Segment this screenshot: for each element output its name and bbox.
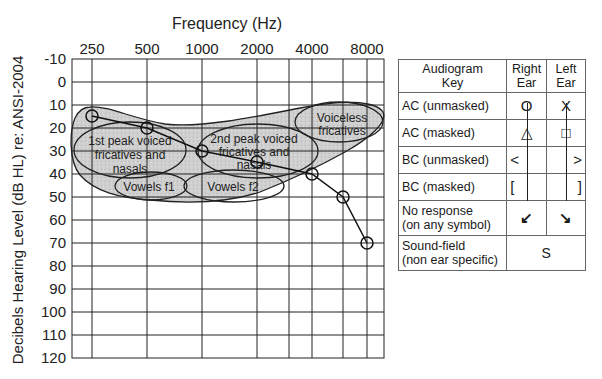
x-tick-2000: 2000: [240, 40, 273, 57]
x-tick-labels: 250 500 1000 2000 4000 8000: [79, 40, 383, 57]
legend-label: BC (masked): [399, 174, 507, 201]
chart-title: Frequency (Hz): [172, 15, 282, 32]
y-axis-label: Decibels Hearing Level (dB HL) re: ANSI-…: [9, 56, 26, 364]
legend-label: AC (masked): [399, 120, 507, 147]
legend-header-right-ear: RightEar: [507, 60, 547, 93]
left-ear-connector-line: [566, 103, 567, 201]
legend-header-left-line2: Ear: [556, 76, 575, 90]
x-tick-250: 250: [79, 40, 104, 57]
legend-label-line1: No response: [402, 204, 473, 218]
legend-label-line2: (non ear specific): [402, 253, 498, 267]
y-tick-labels: -10 0 10 20 30 40 50 60 70 80 90 100 110…: [41, 50, 66, 366]
legend-header-key: AudiogramKey: [399, 60, 507, 93]
legend-header-left-line1: Left: [556, 62, 577, 76]
x-tick-1000: 1000: [185, 40, 218, 57]
legend-row-ac-unmasked: AC (unmasked) O X: [399, 93, 586, 120]
right-ear-connector-line: [527, 103, 528, 201]
y-tick: 80: [49, 257, 66, 274]
s-symbol-icon: S: [507, 236, 586, 271]
legend-label-line1: Sound-field: [402, 239, 465, 253]
legend-row-bc-unmasked: BC (unmasked) < >: [399, 147, 586, 174]
arrow-down-left-icon: ↙: [507, 201, 547, 236]
y-tick: 90: [49, 280, 66, 297]
legend-label: AC (unmasked): [399, 93, 507, 120]
y-tick: 120: [41, 349, 66, 366]
legend-row-ac-masked: AC (masked) △ □: [399, 120, 586, 147]
legend-label: Sound-field(non ear specific): [399, 236, 507, 271]
legend-header-right-line2: Ear: [517, 76, 536, 90]
y-tick: -10: [44, 50, 66, 67]
y-tick: 30: [49, 142, 66, 159]
x-tick-4000: 4000: [295, 40, 328, 57]
legend-header-right-line1: Right: [512, 62, 541, 76]
legend-label: BC (unmasked): [399, 147, 507, 174]
legend-header-key-line1: Audiogram: [422, 62, 482, 76]
y-tick: 0: [58, 73, 66, 90]
y-tick: 40: [49, 165, 66, 182]
y-tick: 20: [49, 119, 66, 136]
y-tick: 50: [49, 188, 66, 205]
y-tick: 110: [42, 326, 66, 343]
vowels-f1-label: Vowels f1: [123, 180, 175, 194]
y-tick: 10: [49, 96, 66, 113]
legend-header-left-ear: LeftEar: [546, 60, 585, 93]
vowels-f2-label: Vowels f2: [207, 180, 259, 194]
legend-row-no-response: No response(on any symbol) ↙ ↘: [399, 201, 586, 236]
legend-row-sound-field: Sound-field(non ear specific) S: [399, 236, 586, 271]
legend-label: No response(on any symbol): [399, 201, 507, 236]
audiogram-key-table: AudiogramKey RightEar LeftEar AC (unmask…: [398, 59, 586, 271]
legend-label-line2: (on any symbol): [402, 218, 491, 232]
arrow-down-right-icon: ↘: [546, 201, 585, 236]
y-tick: 60: [49, 211, 66, 228]
legend-row-bc-masked: BC (masked) [ ]: [399, 174, 586, 201]
legend-header-key-line2: Key: [442, 76, 464, 90]
y-tick: 70: [49, 234, 66, 251]
x-tick-500: 500: [134, 40, 159, 57]
voiceless-fricatives-label: Voicelessfricatives: [317, 111, 368, 138]
x-tick-8000: 8000: [350, 40, 383, 57]
y-tick: 100: [41, 303, 66, 320]
